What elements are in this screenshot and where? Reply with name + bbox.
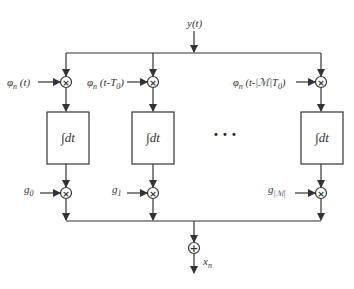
output-label: xn [202, 255, 212, 270]
integrator-label: ∫dt [145, 130, 160, 146]
branch-1-gain-label: g1 [112, 183, 122, 198]
sum-symbol: + [190, 243, 198, 254]
multiply-symbol: × [62, 78, 70, 88]
input-label: y(t) [186, 17, 203, 30]
integrator-label: ∫dt [314, 130, 329, 146]
branch-0-gain-label: g0 [24, 183, 34, 198]
branch-0: φn (t) × ∫dt g0 × [7, 53, 89, 220]
branch-1: φn (t-T0) × ∫dt g1 × [87, 53, 174, 220]
branch-m-gain-label: g|ℳ| [268, 183, 286, 198]
branch-0-basis-label: φn (t) [7, 76, 31, 91]
multiply-symbol: × [149, 189, 157, 199]
correlator-diagram: y(t) φn (t) × ∫dt g0 × φn (t-T0) × ∫dt g… [0, 0, 354, 289]
multiply-symbol: × [62, 189, 70, 199]
ellipsis: • • • [213, 129, 237, 140]
integrator-label: ∫dt [60, 130, 75, 146]
branch-1-basis-label: φn (t-T0) [87, 76, 124, 91]
branch-m-basis-label: φn (t-|ℳ|T0) [233, 77, 286, 91]
multiply-symbol: × [317, 189, 325, 199]
multiply-symbol: × [317, 78, 325, 88]
branch-m: φn (t-|ℳ|T0) × ∫dt g|ℳ| × [233, 53, 343, 220]
multiply-symbol: × [149, 78, 157, 88]
